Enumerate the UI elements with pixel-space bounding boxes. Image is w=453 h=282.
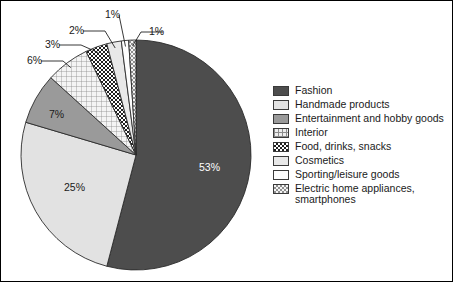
legend-item-label: Cosmetics	[295, 155, 344, 166]
legend-swatch-icon	[273, 184, 289, 194]
legend-item[interactable]: Sporting/leisure goods	[273, 169, 451, 180]
legend-item-label: Food, drinks, snacks	[295, 141, 391, 152]
pie-slice-value-label: 6%	[27, 54, 42, 66]
pie-slice-value-label: 25%	[64, 181, 85, 193]
legend-item[interactable]: Fashion	[273, 85, 451, 96]
legend-swatch-icon	[273, 128, 289, 138]
pie-slice-value-label: 3%	[45, 38, 60, 50]
pie-slice-value-label: 53%	[199, 161, 220, 173]
legend-swatch-icon	[273, 86, 289, 96]
pie-slices-group	[21, 40, 251, 270]
legend-item[interactable]: Entertainment and hobby goods	[273, 113, 451, 124]
legend-item-label: Electric home appliances, smartphones	[295, 183, 415, 205]
chart-legend: FashionHandmade productsEntertainment an…	[273, 85, 451, 208]
pie-slice-value-label: 1%	[149, 25, 164, 37]
legend-item[interactable]: Food, drinks, snacks	[273, 141, 451, 152]
legend-item-label: Handmade products	[295, 99, 390, 110]
pie-slice-value-label: 7%	[49, 108, 64, 120]
pie-chart-figure: 53%25%7%6%3%2%1%1% FashionHandmade produ…	[0, 0, 453, 282]
legend-item-label: Fashion	[295, 85, 332, 96]
legend-item[interactable]: Cosmetics	[273, 155, 451, 166]
legend-item-label: Sporting/leisure goods	[295, 169, 399, 180]
legend-item[interactable]: Interior	[273, 127, 451, 138]
pie-slice-value-label: 1%	[105, 8, 120, 20]
legend-swatch-icon	[273, 170, 289, 180]
legend-swatch-icon	[273, 114, 289, 124]
legend-swatch-icon	[273, 100, 289, 110]
legend-item-label: Interior	[295, 127, 328, 138]
legend-item-label: Entertainment and hobby goods	[295, 113, 444, 124]
pie-slice-value-label: 2%	[69, 24, 84, 36]
legend-item[interactable]: Electric home appliances, smartphones	[273, 183, 451, 205]
legend-swatch-icon	[273, 142, 289, 152]
legend-item[interactable]: Handmade products	[273, 99, 451, 110]
legend-swatch-icon	[273, 156, 289, 166]
